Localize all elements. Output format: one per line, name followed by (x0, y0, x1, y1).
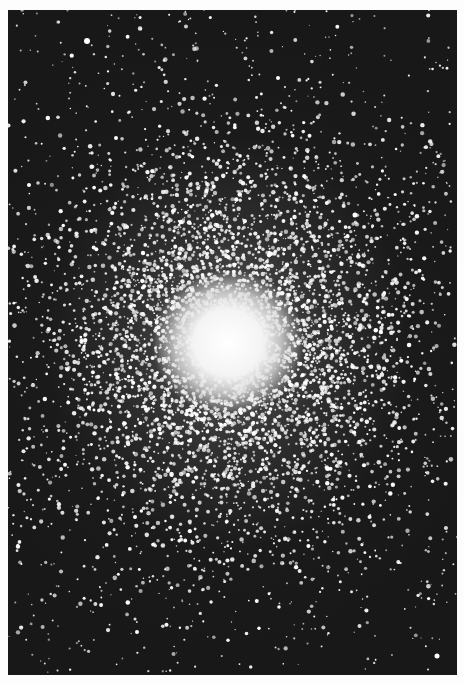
star-cluster-photo (8, 10, 457, 675)
cluster-core (8, 10, 457, 675)
